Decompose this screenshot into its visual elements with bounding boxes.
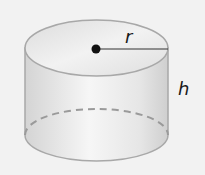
- center-dot: [92, 45, 101, 54]
- height-label: h: [178, 78, 189, 99]
- cylinder-figure: r h: [0, 0, 205, 175]
- cylinder-diagram: r h: [0, 0, 205, 175]
